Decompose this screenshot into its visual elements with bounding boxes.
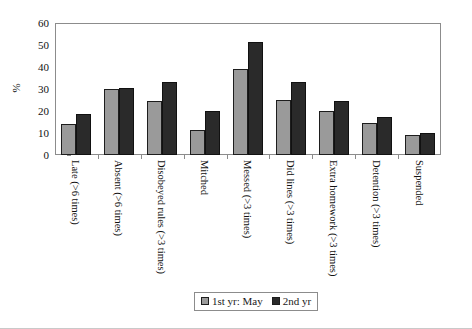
x-axis-tick-label: Detention (>3 times) xyxy=(371,160,382,248)
x-axis-tick-label: Extra homework (>3 times) xyxy=(328,160,339,276)
x-axis-tick-mark xyxy=(312,155,313,159)
x-axis-tick-mark xyxy=(398,155,399,159)
legend-swatch-icon xyxy=(201,297,209,305)
bar-series-1 xyxy=(61,124,76,155)
legend-entry: 1st yr: May xyxy=(201,295,263,307)
bar-group xyxy=(319,23,349,155)
bar-series-2 xyxy=(377,117,392,156)
x-axis-labels: Late (>6 times)Absent (>6 times)Disobeye… xyxy=(55,160,441,270)
x-axis-tick-mark xyxy=(227,155,228,159)
bar-group xyxy=(362,23,392,155)
x-axis-tick-label: Suspended xyxy=(414,160,425,206)
x-axis-ticks xyxy=(55,155,441,159)
y-axis-tick-label: 0 xyxy=(23,150,49,160)
bar-group xyxy=(190,23,220,155)
legend-entry: 2nd yr xyxy=(272,295,311,307)
bar-series-1 xyxy=(405,135,420,155)
legend-label: 2nd yr xyxy=(283,295,311,307)
bar-series-2 xyxy=(162,82,177,155)
x-axis-tick-mark xyxy=(269,155,270,159)
bar-series-2 xyxy=(420,133,435,155)
bar-series-2 xyxy=(334,101,349,155)
bar-group xyxy=(147,23,177,155)
bar-series-2 xyxy=(248,42,263,155)
bars-layer xyxy=(55,23,441,155)
bar-group xyxy=(233,23,263,155)
bar-series-1 xyxy=(104,89,119,155)
bar-chart-figure: % 6050403020100 Late (>6 times)Absent (>… xyxy=(0,0,472,329)
x-axis-tick-label: Messed (>3 times) xyxy=(242,160,253,238)
bar-series-2 xyxy=(205,111,220,155)
bar-series-1 xyxy=(319,111,334,155)
y-axis-tick-label: 20 xyxy=(23,106,49,116)
x-axis-tick-mark xyxy=(98,155,99,159)
y-axis-tick-label: 10 xyxy=(23,128,49,138)
x-axis-tick-label: Did lines (>3 times) xyxy=(285,160,296,244)
y-axis-tick-label: 30 xyxy=(23,84,49,94)
x-axis-tick-label: Disobeyed rules (>3 times) xyxy=(156,160,167,274)
bar-series-1 xyxy=(147,101,162,155)
y-axis-tick-label: 60 xyxy=(23,18,49,28)
bar-group xyxy=(61,23,91,155)
y-axis: 6050403020100 xyxy=(19,0,49,329)
legend-label: 1st yr: May xyxy=(212,295,263,307)
bar-series-2 xyxy=(119,88,134,155)
chart-legend: 1st yr: May2nd yr xyxy=(194,292,318,311)
x-axis-tick-mark xyxy=(355,155,356,159)
x-axis-tick-mark xyxy=(141,155,142,159)
bar-series-2 xyxy=(76,114,91,155)
bar-group xyxy=(405,23,435,155)
bar-series-1 xyxy=(276,100,291,155)
x-axis-tick-label: Late (>6 times) xyxy=(70,160,81,225)
bar-series-1 xyxy=(190,130,205,155)
bar-series-1 xyxy=(233,69,248,155)
bar-group xyxy=(276,23,306,155)
x-axis-tick-label: Mitched xyxy=(199,160,210,195)
bar-group xyxy=(104,23,134,155)
y-axis-tick-label: 50 xyxy=(23,40,49,50)
y-axis-tick-label: 40 xyxy=(23,62,49,72)
legend-swatch-icon xyxy=(272,297,280,305)
x-axis-tick-mark xyxy=(184,155,185,159)
bar-series-1 xyxy=(362,123,377,155)
x-axis-tick-label: Absent (>6 times) xyxy=(113,160,124,236)
bar-series-2 xyxy=(291,82,306,155)
